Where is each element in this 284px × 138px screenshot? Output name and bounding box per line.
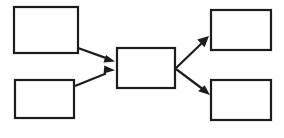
edge-line-source-bottom-to-hub	[75, 74, 106, 87]
arrowhead-source-bottom-to-hub	[104, 65, 115, 73]
edge-source-top-to-hub	[78, 48, 115, 63]
edge-hub-to-target-bottom	[176, 69, 210, 95]
node-box-target-top[interactable]	[211, 10, 271, 50]
node-box-source-bottom[interactable]	[15, 80, 74, 118]
node-target-top[interactable]	[211, 10, 271, 50]
flow-diagram	[0, 0, 284, 138]
edge-line-source-top-to-hub	[78, 48, 107, 58]
edge-source-bottom-to-hub	[75, 65, 115, 86]
diagram-canvas	[0, 0, 284, 138]
arrowhead-source-top-to-hub	[103, 55, 115, 63]
node-box-hub-center[interactable]	[117, 48, 175, 88]
node-box-source-top[interactable]	[14, 7, 78, 53]
node-source-top[interactable]	[14, 7, 78, 53]
node-hub-center[interactable]	[117, 48, 175, 88]
edge-hub-to-target-top	[176, 36, 209, 68]
node-source-bottom[interactable]	[15, 80, 74, 118]
edge-line-hub-to-target-top	[176, 44, 202, 69]
node-box-target-bottom[interactable]	[211, 80, 271, 120]
edge-line-hub-to-target-bottom	[176, 69, 202, 89]
node-target-bottom[interactable]	[211, 80, 271, 120]
